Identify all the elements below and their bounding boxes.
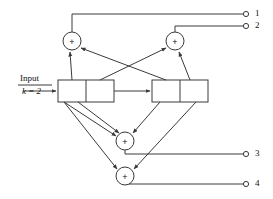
tap-left-b-to-adder-middle: [78, 102, 119, 133]
output-terminal-3-label: 3: [255, 149, 260, 158]
output-terminal-4-ring[interactable]: [243, 181, 248, 186]
tap-right-to-adder-bottom: [134, 102, 196, 169]
tap-left-to-adder-top-left: [70, 52, 72, 80]
output-terminal-4-label: 4: [255, 179, 260, 188]
adder-top-right-output-wire: [175, 26, 243, 32]
input-label-bottom: k = 2: [22, 87, 41, 96]
output-terminal-1-ring[interactable]: [243, 11, 248, 16]
output-terminal-2-ring[interactable]: [243, 23, 248, 28]
adder-top-left-symbol: +: [69, 37, 74, 47]
tap-left-to-adder-top-right: [100, 48, 166, 80]
adder-top-right-symbol: +: [172, 37, 177, 47]
tap-right-to-adder-top-right: [179, 52, 190, 80]
output-terminal-3-ring[interactable]: [243, 151, 248, 156]
output-terminal-2-label: 2: [255, 21, 260, 30]
adder-bottom-symbol: +: [122, 172, 127, 182]
tap-right-to-adder-top-left: [81, 48, 166, 80]
encoder-diagram: + + + + Input k = 2 1 2 3 4: [0, 0, 273, 199]
input-label-top: Input: [20, 74, 39, 83]
tap-right-to-adder-middle: [133, 102, 160, 133]
adder-middle-output-wire: [125, 150, 243, 154]
adder-middle-symbol: +: [122, 137, 127, 147]
output-terminal-1-label: 1: [255, 9, 260, 18]
adder-bottom-output-wire: [125, 184, 243, 185]
adder-top-left-output-wire: [72, 14, 243, 32]
schematic-canvas: + + + +: [0, 0, 273, 199]
tap-left-a-to-adder-middle: [64, 102, 116, 136]
